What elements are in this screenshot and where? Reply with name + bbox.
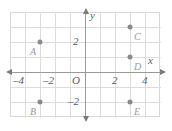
data-point-label-b: B <box>30 106 36 117</box>
data-point-label-a: A <box>30 46 36 57</box>
data-point-label-c: C <box>134 31 141 42</box>
data-point-a <box>38 40 43 45</box>
gridline-horizontal <box>11 87 161 88</box>
y-axis <box>85 10 86 120</box>
gridline-horizontal <box>11 27 161 28</box>
data-point-c <box>128 25 133 30</box>
x-axis-arrow-left-icon <box>6 69 12 75</box>
data-point-label-d: D <box>134 61 141 72</box>
gridline-horizontal <box>11 57 161 58</box>
x-tick-label--2: –2 <box>43 74 54 86</box>
x-tick-label--4: –4 <box>13 74 24 86</box>
y-axis-arrow-down-icon <box>83 116 89 122</box>
data-point-e <box>128 100 133 105</box>
gridline-horizontal <box>11 102 161 103</box>
y-tick-label--2: –2 <box>68 95 79 107</box>
origin-label: O <box>72 74 80 86</box>
x-tick-label-4: 4 <box>142 74 148 86</box>
y-tick-label-2: 2 <box>73 35 79 47</box>
data-point-b <box>38 100 43 105</box>
x-axis-label: x <box>148 54 153 66</box>
data-point-d <box>128 55 133 60</box>
y-axis-label: y <box>90 9 95 21</box>
data-point-label-e: E <box>134 106 140 117</box>
x-axis <box>8 72 160 73</box>
x-tick-label-2: 2 <box>112 74 118 86</box>
y-axis-arrow-up-icon <box>83 8 89 14</box>
coordinate-plane: x y –4 –2 2 4 2 –2 O A B C D E <box>0 0 172 131</box>
gridline-horizontal <box>11 42 161 43</box>
x-axis-arrow-right-icon <box>160 69 166 75</box>
